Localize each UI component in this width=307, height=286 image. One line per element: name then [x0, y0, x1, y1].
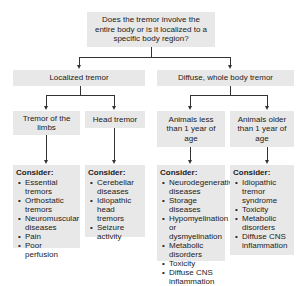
consider-item: Poor perfusion — [25, 241, 77, 259]
connector-line — [46, 95, 47, 106]
arrow-icon — [77, 65, 81, 69]
consider-list: Neurodegenerative diseases Storage disea… — [160, 178, 222, 286]
localized-tremor-box: Localized tremor — [13, 70, 145, 86]
arrow-icon — [112, 160, 116, 164]
consider-item: Diffuse CNS inflammation — [242, 232, 291, 250]
root-question-text: Does the tremor involve the entire body … — [91, 15, 211, 44]
consider-item: Toxicity — [169, 259, 222, 268]
connector-line — [190, 95, 268, 96]
animals-less-than-1yr-box: Animals less than 1 year of age — [157, 111, 225, 147]
connector-line — [151, 47, 152, 57]
arrow-icon — [188, 106, 192, 110]
consider-item: Seizure activity — [97, 223, 142, 241]
connector-line — [190, 95, 191, 106]
consider-heading: Consider: — [233, 168, 291, 178]
animals-less-than-1yr-label: Animals less than 1 year of age — [163, 115, 219, 144]
connector-line — [267, 95, 268, 106]
consider-list: Essential tremors Orthostatic tremors Ne… — [16, 178, 77, 259]
consider-list: Idiopathic tremor syndrome Toxicity Meta… — [233, 178, 291, 250]
animals-older-than-1yr-label: Animals older than 1 year of age — [235, 115, 289, 144]
consider-item: Essential tremors — [25, 178, 77, 196]
head-tremor-box: Head tremor — [85, 111, 145, 128]
consider-item: Neurodegenerative diseases — [169, 178, 222, 196]
root-question-box: Does the tremor involve the entire body … — [87, 12, 215, 47]
arrow-icon — [265, 106, 269, 110]
consider-item: Diffuse CNS inflammation — [169, 268, 222, 286]
consider-over-1yr-box: Consider: Idiopathic tremor syndrome Tox… — [230, 165, 294, 255]
consider-item: Toxicity — [242, 205, 291, 214]
consider-heading: Consider: — [16, 168, 77, 178]
consider-item: Metabolic disorders — [242, 214, 291, 232]
arrow-icon — [44, 160, 48, 164]
arrow-icon — [44, 106, 48, 110]
consider-limbs-box: Consider: Essential tremors Orthostatic … — [13, 165, 80, 248]
consider-heading: Consider: — [88, 168, 142, 178]
consider-head-box: Consider: Cerebellar diseases Idiopathic… — [85, 165, 145, 237]
tremor-of-limbs-box: Tremor of the limbs — [13, 111, 80, 135]
consider-item: Storage diseases — [169, 196, 222, 214]
consider-item: Metabolic disorders — [169, 241, 222, 259]
consider-item: Idiopathic tremor syndrome — [242, 178, 291, 205]
connector-line — [267, 147, 268, 160]
diffuse-tremor-box: Diffuse, whole body tremor — [157, 70, 294, 86]
diffuse-tremor-label: Diffuse, whole body tremor — [178, 73, 273, 83]
connector-line — [114, 95, 115, 106]
connector-line — [80, 86, 81, 95]
connector-line — [79, 57, 231, 58]
animals-older-than-1yr-box: Animals older than 1 year of age — [230, 111, 294, 147]
connector-line — [190, 147, 191, 160]
connector-line — [46, 135, 47, 160]
connector-line — [46, 95, 115, 96]
arrow-icon — [228, 65, 232, 69]
arrow-icon — [112, 106, 116, 110]
consider-item: Neuromuscular diseases — [25, 214, 77, 232]
consider-list: Cerebellar diseases Idiopathic head trem… — [88, 178, 142, 241]
consider-item: Cerebellar diseases — [97, 178, 142, 196]
tremor-of-limbs-label: Tremor of the limbs — [16, 114, 77, 133]
consider-item: Orthostatic tremors — [25, 196, 77, 214]
arrow-icon — [188, 160, 192, 164]
consider-heading: Consider: — [160, 168, 222, 178]
connector-line — [114, 128, 115, 160]
consider-item: Idiopathic head tremors — [97, 196, 142, 223]
localized-tremor-label: Localized tremor — [49, 73, 108, 83]
arrow-icon — [265, 160, 269, 164]
consider-under-1yr-box: Consider: Neurodegenerative diseases Sto… — [157, 165, 225, 261]
connector-line — [230, 86, 231, 95]
consider-item: Hypomyelination or dysmyelination — [169, 214, 222, 241]
head-tremor-label: Head tremor — [93, 115, 137, 125]
consider-item: Pain — [25, 232, 77, 241]
